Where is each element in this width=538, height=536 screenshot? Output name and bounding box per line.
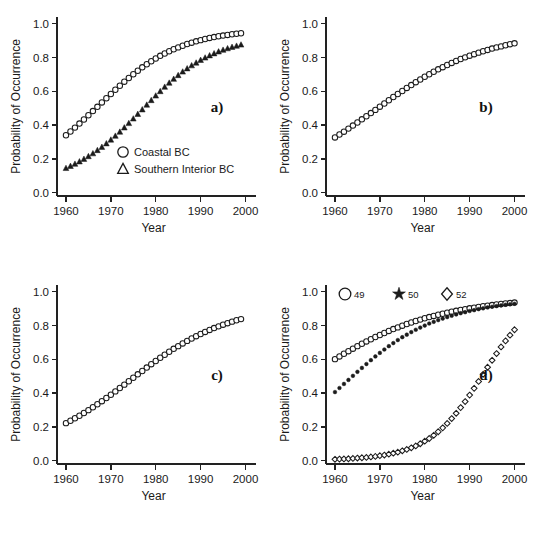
data-point-star bbox=[454, 313, 458, 317]
data-point-diamond bbox=[494, 351, 500, 357]
x-axis-title: Year bbox=[410, 221, 434, 235]
data-point-star bbox=[445, 315, 449, 319]
data-point-triangle bbox=[238, 42, 244, 47]
data-point-diamond bbox=[471, 385, 477, 391]
data-point-diamond bbox=[489, 357, 495, 363]
x-tick-label: 1980 bbox=[143, 205, 169, 217]
data-point-star bbox=[409, 330, 413, 334]
data-point-star bbox=[418, 326, 422, 330]
data-point-triangle bbox=[95, 147, 101, 152]
x-tick-label: 1970 bbox=[367, 205, 393, 217]
data-point-star bbox=[356, 370, 360, 374]
data-point-triangle bbox=[234, 43, 240, 48]
y-tick-label: 0.2 bbox=[33, 421, 49, 433]
data-point-diamond bbox=[449, 416, 455, 422]
x-tick-label: 1990 bbox=[188, 205, 214, 217]
y-tick-label: 0.0 bbox=[302, 455, 318, 467]
data-point-diamond bbox=[462, 399, 468, 405]
data-point-star bbox=[369, 358, 373, 362]
y-tick-label: 0.8 bbox=[33, 52, 49, 64]
y-tick-label: 0.4 bbox=[302, 119, 319, 131]
x-tick-label: 2000 bbox=[502, 473, 528, 485]
data-point-diamond bbox=[498, 344, 504, 350]
x-tick-label: 1960 bbox=[53, 205, 79, 217]
data-point-triangle bbox=[90, 150, 96, 155]
chart-svg-d: 0.00.20.40.60.81.019601970198019902000Ye… bbox=[269, 268, 538, 536]
x-tick-label: 1990 bbox=[457, 205, 483, 217]
data-point-triangle bbox=[184, 66, 190, 71]
data-point-star bbox=[481, 306, 485, 310]
y-tick-label: 1.0 bbox=[33, 286, 49, 298]
y-tick-label: 0.2 bbox=[302, 421, 318, 433]
x-tick-label: 1960 bbox=[322, 205, 348, 217]
series-series-b bbox=[332, 41, 517, 140]
y-axis-title: Probability of Occurrence bbox=[9, 39, 23, 174]
data-point-star bbox=[508, 302, 512, 306]
chart-svg-b: 0.00.20.40.60.81.019601970198019902000Ye… bbox=[269, 0, 538, 268]
x-tick-label: 1990 bbox=[457, 473, 483, 485]
data-point-star bbox=[378, 351, 382, 355]
data-point-star bbox=[441, 317, 445, 321]
data-point-diamond bbox=[507, 332, 513, 338]
panel-label-c: c) bbox=[211, 367, 223, 384]
series-coastal-bc bbox=[63, 31, 243, 138]
data-point-circle bbox=[72, 125, 77, 130]
x-tick-label: 1980 bbox=[412, 205, 438, 217]
x-tick-label: 2000 bbox=[233, 205, 259, 217]
x-axis-title: Year bbox=[141, 489, 165, 503]
y-tick-label: 0.0 bbox=[33, 187, 49, 199]
data-point-diamond bbox=[435, 429, 441, 435]
data-point-circle bbox=[238, 316, 243, 321]
x-tick-label: 1970 bbox=[98, 205, 124, 217]
data-point-star bbox=[472, 308, 476, 312]
data-point-star bbox=[400, 335, 404, 339]
data-point-triangle bbox=[180, 69, 186, 74]
data-point-star bbox=[351, 374, 355, 378]
y-tick-label: 0.6 bbox=[33, 353, 49, 365]
data-point-star bbox=[414, 328, 418, 332]
data-point-diamond bbox=[512, 327, 518, 333]
chart-panel-c: 0.00.20.40.60.81.019601970198019902000Ye… bbox=[0, 268, 269, 536]
data-point-star bbox=[333, 390, 337, 394]
legend-marker-circle-open bbox=[339, 288, 351, 300]
data-point-diamond bbox=[444, 421, 450, 427]
y-axis-title: Probability of Occurrence bbox=[9, 307, 23, 442]
y-tick-label: 0.4 bbox=[302, 387, 319, 399]
x-tick-label: 2000 bbox=[502, 205, 528, 217]
data-point-star bbox=[459, 311, 463, 315]
data-point-star bbox=[486, 306, 490, 310]
y-tick-label: 0.0 bbox=[302, 187, 318, 199]
x-tick-label: 1970 bbox=[98, 473, 124, 485]
y-tick-label: 0.8 bbox=[302, 320, 318, 332]
data-point-star bbox=[504, 303, 508, 307]
legend-label: 52 bbox=[456, 289, 467, 300]
data-point-star bbox=[513, 302, 517, 306]
data-point-diamond bbox=[440, 425, 446, 431]
data-point-star bbox=[427, 322, 431, 326]
y-tick-label: 1.0 bbox=[302, 286, 318, 298]
y-tick-label: 0.2 bbox=[302, 153, 318, 165]
legend-marker-star-filled bbox=[393, 287, 406, 299]
y-tick-label: 0.6 bbox=[302, 353, 318, 365]
data-point-circle bbox=[81, 117, 86, 122]
data-point-star bbox=[396, 338, 400, 342]
legend-label: Southern Interior BC bbox=[134, 163, 234, 175]
data-point-star bbox=[468, 309, 472, 313]
data-point-circle bbox=[99, 100, 104, 105]
data-point-circle bbox=[86, 113, 91, 118]
x-axis-title: Year bbox=[141, 221, 165, 235]
x-axis-title: Year bbox=[410, 489, 434, 503]
y-tick-label: 0.6 bbox=[33, 85, 49, 97]
data-point-diamond bbox=[503, 338, 509, 344]
y-tick-label: 1.0 bbox=[33, 18, 49, 30]
data-point-star bbox=[450, 314, 454, 318]
data-point-star bbox=[490, 305, 494, 309]
y-tick-label: 0.8 bbox=[33, 320, 49, 332]
figure-canvas: 0.00.20.40.60.81.019601970198019902000Ye… bbox=[0, 0, 538, 536]
data-point-star bbox=[347, 378, 351, 382]
legend-label: Coastal BC bbox=[134, 146, 190, 158]
data-point-diamond bbox=[458, 405, 464, 411]
x-tick-label: 1970 bbox=[367, 473, 393, 485]
chart-panel-a: 0.00.20.40.60.81.019601970198019902000Ye… bbox=[0, 0, 269, 268]
data-point-circle bbox=[68, 129, 73, 134]
